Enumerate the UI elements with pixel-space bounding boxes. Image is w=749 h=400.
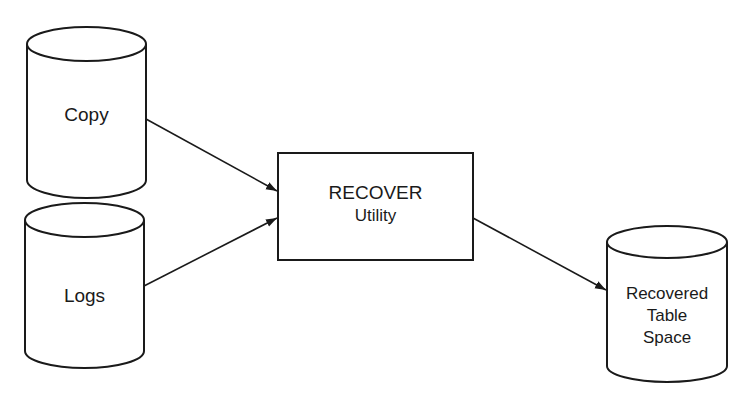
recover-subtitle: Utility	[278, 206, 473, 226]
arrow-recover-to-recovered	[473, 218, 606, 290]
recovered-label-line-1: Recovered	[607, 284, 727, 304]
logs-label: Logs	[25, 285, 144, 308]
copy-label: Copy	[27, 104, 146, 127]
recovered-label-line-3: Space	[607, 328, 727, 348]
arrow-copy-to-recover	[146, 119, 277, 191]
recover-title: RECOVER	[278, 182, 473, 205]
arrow-logs-to-recover	[144, 218, 277, 286]
recovered-label-line-2: Table	[607, 306, 727, 326]
